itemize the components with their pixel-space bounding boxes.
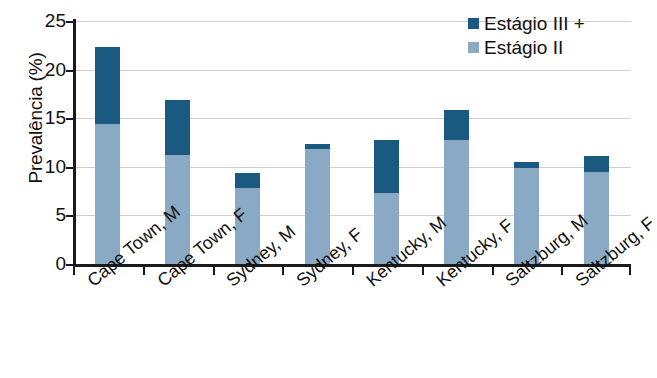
y-axis-tick-labels: 0510152025 (32, 0, 66, 378)
y-axis-tick-mark (66, 21, 74, 23)
bar-segment-estagio-iii-plus (95, 47, 120, 124)
legend-item: Estágio III + (468, 12, 585, 34)
bar-stack (235, 173, 260, 264)
chart-legend: Estágio III +Estágio II (468, 12, 585, 58)
legend-item: Estágio II (468, 36, 585, 58)
bar-stack (444, 110, 469, 264)
y-axis-tick-label: 15 (32, 108, 66, 127)
x-axis-tick-mark (73, 267, 75, 275)
gridline (73, 70, 631, 71)
x-axis-tick-mark (422, 267, 424, 275)
bar-segment-estagio-iii-plus (165, 100, 190, 155)
bar-segment-estagio-ii (444, 140, 469, 264)
bar-segment-estagio-ii (305, 149, 330, 264)
x-axis-tick-mark (629, 267, 631, 275)
bar-segment-estagio-ii (95, 124, 120, 264)
bar-stack (95, 47, 120, 264)
bar-segment-estagio-iii-plus (305, 144, 330, 149)
bar-segment-estagio-iii-plus (235, 173, 260, 189)
bar-stack (514, 162, 539, 264)
y-axis-tick-label: 20 (32, 60, 66, 79)
bar-segment-estagio-ii (514, 168, 539, 264)
gridline (73, 167, 631, 168)
bar-segment-estagio-ii (374, 193, 399, 264)
x-axis-tick-mark (352, 267, 354, 275)
legend-swatch-estagio-iii (468, 18, 479, 29)
bar-segment-estagio-ii (584, 172, 609, 264)
y-axis-tick-label: 5 (32, 205, 66, 224)
bar-segment-estagio-iii-plus (444, 110, 469, 139)
bar-segment-estagio-ii (235, 188, 260, 264)
x-axis-tick-mark (213, 267, 215, 275)
y-axis-tick-mark (66, 167, 74, 169)
y-axis-tick-label: 10 (32, 157, 66, 176)
x-axis-tick-mark (143, 267, 145, 275)
gridline (73, 215, 631, 216)
y-axis-tick-label: 0 (32, 254, 66, 273)
bar-stack (305, 144, 330, 264)
bar-stack (374, 140, 399, 264)
bar-segment-estagio-ii (165, 155, 190, 264)
bar-stack (584, 156, 609, 264)
bar-segment-estagio-iii-plus (514, 162, 539, 168)
bar-stack (165, 100, 190, 264)
x-axis-tick-mark (492, 267, 494, 275)
y-axis-line (73, 19, 76, 266)
legend-swatch-estagio-ii (468, 42, 479, 53)
y-axis-tick-label: 25 (32, 11, 66, 30)
y-axis-tick-mark (66, 264, 74, 266)
y-axis-tick-mark (66, 215, 74, 217)
x-axis-tick-mark (282, 267, 284, 275)
y-axis-tick-mark (66, 70, 74, 72)
y-axis-tick-mark (66, 118, 74, 120)
legend-label: Estágio III + (484, 14, 585, 33)
x-axis-tick-mark (561, 267, 563, 275)
bar-segment-estagio-iii-plus (374, 140, 399, 193)
bar-segment-estagio-iii-plus (584, 156, 609, 172)
legend-label: Estágio II (484, 38, 563, 57)
gridline (73, 118, 631, 119)
